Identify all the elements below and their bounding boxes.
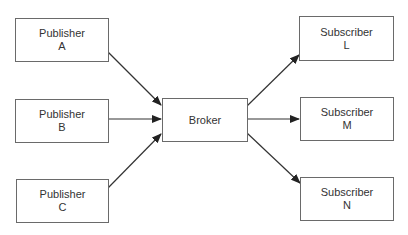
publisher-a-label: Publisher xyxy=(39,27,85,40)
publisher-a-node: Publisher A xyxy=(15,18,109,62)
publisher-a-id: A xyxy=(58,40,65,53)
broker-label: Broker xyxy=(189,114,221,127)
subscriber-m-node: Subscriber M xyxy=(300,97,394,141)
publisher-c-node: Publisher C xyxy=(16,179,109,223)
edge-broker-subscriber-n xyxy=(247,133,300,183)
subscriber-n-node: Subscriber N xyxy=(300,177,394,221)
publisher-b-id: B xyxy=(58,121,65,134)
publisher-b-node: Publisher B xyxy=(15,99,109,143)
edge-publisher-c-broker xyxy=(108,134,161,188)
subscriber-n-id: N xyxy=(343,199,351,212)
subscriber-l-id: L xyxy=(343,39,349,52)
subscriber-l-node: Subscriber L xyxy=(299,16,394,61)
publisher-c-id: C xyxy=(59,201,67,214)
edge-publisher-a-broker xyxy=(108,52,161,105)
subscriber-m-label: Subscriber xyxy=(321,106,374,119)
edge-broker-subscriber-l xyxy=(247,55,299,106)
broker-node: Broker xyxy=(162,98,248,142)
subscriber-l-label: Subscriber xyxy=(320,26,373,39)
publisher-c-label: Publisher xyxy=(40,188,86,201)
subscriber-n-label: Subscriber xyxy=(321,186,374,199)
publisher-b-label: Publisher xyxy=(39,108,85,121)
subscriber-m-id: M xyxy=(342,119,351,132)
